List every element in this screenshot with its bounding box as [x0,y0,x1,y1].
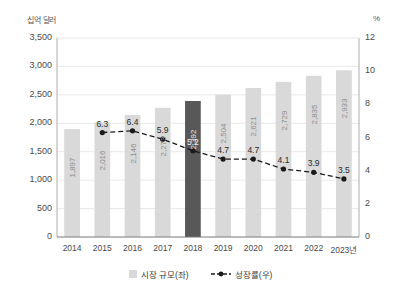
line-value-label: 5.9 [149,125,177,135]
right-tick-label: 12 [365,32,375,42]
line-value-label: 3.9 [300,158,328,168]
right-tick-label: 0 [365,231,370,241]
line-value-label: 5.2 [179,137,207,147]
right-tick-label: 10 [365,65,375,75]
left-tick-label: 1,000 [29,174,52,184]
right-tick-label: 4 [365,165,370,175]
bar [245,88,261,237]
chart-legend: 시장 규모(좌) 성장률(우) [0,268,401,280]
left-axis-unit-label: 십억 달러 [27,14,56,25]
bar-value-label: 2,504 [209,129,237,138]
bar [185,101,201,237]
x-tick-label: 2023년 [324,243,364,255]
line-value-label: 4.1 [270,155,298,165]
right-tick-label: 6 [365,132,370,142]
right-tick-label: 2 [365,198,370,208]
left-tick-label: 3,500 [29,32,52,42]
legend-item-growth-rate[interactable]: 성장률(우) [211,268,273,280]
plot-area [57,38,359,237]
bar [94,122,110,237]
line-value-label: 3.5 [330,165,358,175]
bar-value-label: 2,016 [88,156,116,165]
legend-item-market-size[interactable]: 시장 규모(좌) [129,268,189,280]
bar [215,95,231,237]
data-point [130,128,135,133]
data-point [251,156,256,161]
left-tick-label: 0 [47,231,52,241]
line-value-label: 6.4 [119,117,147,127]
plot-svg [57,38,359,237]
bar [64,129,80,237]
line-value-label: 4.7 [209,145,237,155]
left-tick-label: 2,500 [29,89,52,99]
right-axis-unit-label: % [373,14,380,23]
legend-label-growth-rate: 성장률(우) [235,268,273,280]
data-point [221,156,226,161]
left-tick-label: 2,000 [29,117,52,127]
left-tick-label: 1,500 [29,146,52,156]
bar-value-label: 2,933 [330,104,358,113]
bar-value-label: 2,729 [270,116,298,125]
bar-value-label: 2,835 [300,110,328,119]
bar-value-label: 2,146 [119,149,147,158]
line-swatch-icon [211,270,231,278]
left-tick-label: 3,000 [29,60,52,70]
line-value-label: 6.3 [88,119,116,129]
left-tick-label: 500 [37,203,52,213]
data-point [100,130,105,135]
bar-swatch-icon [129,270,137,278]
bar-value-label: 1,897 [58,163,86,172]
data-point [311,170,316,175]
line-value-label: 4.7 [239,145,267,155]
chart-container: 십억 달러 % 05001,0001,5002,0002,5003,0003,5… [0,0,401,295]
bar-value-label: 2,273 [149,142,177,151]
bar-value-label: 2,621 [239,122,267,131]
data-point [281,166,286,171]
legend-label-market-size: 시장 규모(좌) [141,268,189,280]
right-tick-label: 8 [365,98,370,108]
data-point [341,176,346,181]
